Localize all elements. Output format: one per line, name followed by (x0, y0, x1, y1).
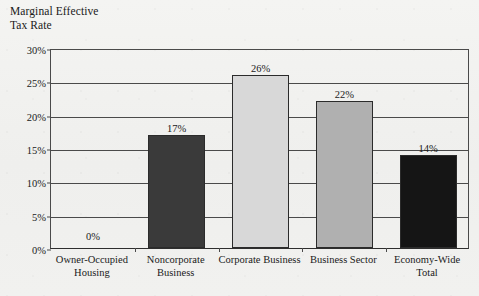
y-axis-tick-label: 15% (27, 145, 46, 156)
bar-value-label: 0% (86, 231, 100, 242)
bar-value-label: 22% (335, 89, 354, 100)
y-axis-tick-label: 25% (27, 78, 46, 89)
y-axis-tick-label: 5% (32, 211, 46, 222)
x-axis-tick-mark (219, 248, 220, 252)
x-axis-category-label: Noncorporate Business (134, 253, 218, 279)
x-axis-tick-mark (135, 248, 136, 252)
y-axis-tick-mark (47, 216, 51, 217)
y-axis-tick-label: 30% (27, 45, 46, 56)
y-axis-tick-mark (47, 183, 51, 184)
bar-value-label: 17% (167, 123, 186, 134)
bar[interactable]: 22% (316, 101, 373, 248)
chart-title: Marginal Effective Tax Rate (10, 5, 99, 32)
y-axis-tick-label: 10% (27, 178, 46, 189)
bar[interactable]: 26% (232, 75, 289, 248)
bar[interactable]: 14% (400, 155, 457, 248)
x-axis-category-label: Owner-Occupied Housing (50, 253, 134, 279)
x-axis-category-label: Economy-Wide Total (385, 253, 469, 279)
x-axis-tick-mark (302, 248, 303, 252)
y-axis-tick-mark (47, 250, 51, 251)
plot-area: 0%5%10%15%20%25%30% 0%17%26%22%14% (50, 49, 469, 249)
chart-figure: Marginal Effective Tax Rate 0%5%10%15%20… (0, 0, 479, 296)
x-axis-category-label: Business Sector (301, 253, 385, 266)
bar-value-label: 26% (251, 63, 270, 74)
y-axis-tick-mark (47, 150, 51, 151)
y-axis-tick-mark (47, 83, 51, 84)
y-axis-tick-label: 0% (32, 245, 46, 256)
bar-value-label: 14% (418, 143, 437, 154)
y-axis-tick-label: 20% (27, 111, 46, 122)
y-axis-tick-mark (47, 116, 51, 117)
bar[interactable]: 17% (148, 135, 205, 248)
x-axis-category-label: Corporate Business (218, 253, 302, 266)
y-axis-tick-mark (47, 50, 51, 51)
x-axis-tick-mark (386, 248, 387, 252)
